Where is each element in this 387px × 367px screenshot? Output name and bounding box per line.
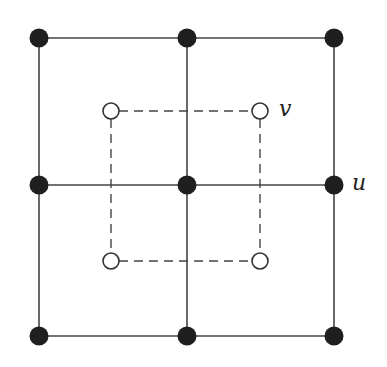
- label-v: v: [279, 96, 292, 121]
- filled-node: [325, 29, 344, 48]
- filled-node-center: [178, 176, 197, 195]
- filled-node: [30, 176, 49, 195]
- open-node: [252, 253, 268, 269]
- filled-node: [178, 29, 197, 48]
- diagram-canvas: v u: [0, 0, 387, 367]
- lattice-diagram: v u: [0, 0, 387, 367]
- open-node-v: [252, 103, 268, 119]
- label-u: u: [352, 170, 366, 195]
- filled-node: [325, 327, 344, 346]
- filled-node: [30, 327, 49, 346]
- filled-node: [178, 327, 197, 346]
- filled-node: [30, 29, 49, 48]
- filled-node-u: [325, 176, 344, 195]
- open-node: [103, 103, 119, 119]
- open-node: [103, 253, 119, 269]
